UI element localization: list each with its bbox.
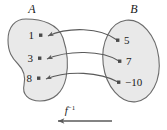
function-label: f−1 (65, 104, 76, 116)
function-label-group: f−1 (65, 104, 76, 116)
element-a-8-label: 8 (27, 72, 33, 84)
set-a-label: A (27, 2, 36, 16)
element-a-1-dot (39, 34, 42, 37)
mapping-diagram-figure: A B 1 3 8 (0, 0, 167, 130)
element-b-7-label: 7 (126, 55, 132, 67)
set-b-group: B (98, 2, 164, 105)
element-b-5-label: 5 (124, 34, 130, 46)
function-label-superscript: −1 (68, 104, 76, 112)
element-a-3-label: 3 (28, 52, 34, 64)
set-b-label: B (130, 2, 138, 16)
element-a-3-dot (38, 57, 41, 60)
element-b-5-dot (116, 39, 119, 42)
diagram-canvas: A B 1 3 8 (0, 0, 167, 130)
element-b-neg10-label: −10 (125, 76, 143, 88)
element-b-7-dot (118, 60, 121, 63)
set-a-group: A (8, 2, 67, 101)
element-a-8-dot (37, 77, 40, 80)
element-b-neg10-dot (117, 81, 120, 84)
set-a-shape (8, 19, 67, 101)
element-a-1-label: 1 (29, 29, 35, 41)
